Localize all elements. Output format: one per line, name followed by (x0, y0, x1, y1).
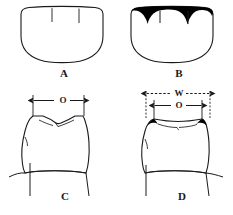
crown-outline-c (22, 116, 89, 173)
dimension-label-w-panel-d: W (172, 89, 186, 98)
panel-label-a: A (54, 68, 74, 79)
dimension-label-o-panel-d: O (172, 101, 186, 110)
dimension-label-o-panel-c: O (56, 96, 70, 105)
tooth-outline-b (131, 6, 213, 62)
root-line-c-right (86, 173, 89, 196)
panel-a-drawing (21, 6, 103, 62)
panel-label-d: D (172, 191, 192, 202)
cervical-line-c (9, 171, 86, 177)
figure-drawing (0, 0, 233, 215)
panel-label-b: B (169, 68, 189, 79)
tooth-outline-a (21, 6, 103, 62)
panel-b-drawing (131, 6, 213, 62)
figure-container: A B C D O W O (0, 0, 233, 215)
root-line-d-right (206, 173, 209, 196)
cervical-line-d (145, 171, 223, 177)
panel-c-drawing (9, 95, 89, 196)
panel-label-c: C (55, 191, 75, 202)
